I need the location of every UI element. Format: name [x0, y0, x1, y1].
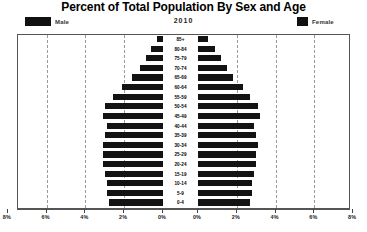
axis-tick-label: 0%	[158, 214, 166, 220]
age-group-label: 35-39	[163, 131, 198, 141]
age-group-label: 75-79	[163, 54, 198, 64]
age-group-label: 60-64	[163, 83, 198, 93]
pyramid-row: 65-69	[18, 73, 349, 83]
age-group-label: 45-49	[163, 112, 198, 122]
axis-tick-label: 6%	[41, 214, 49, 220]
age-group-label: 0-4	[163, 198, 198, 208]
pyramid-row: 5-9	[18, 189, 349, 199]
axis-tick-label: 6%	[309, 214, 317, 220]
pyramid-row: 10-14	[18, 179, 349, 189]
age-group-label: 25-29	[163, 150, 198, 160]
age-group-label: 50-54	[163, 102, 198, 112]
age-group-label: 15-19	[163, 170, 198, 180]
bar-male	[122, 84, 163, 90]
age-group-label: 70-74	[163, 64, 198, 74]
age-group-label: 10-14	[163, 179, 198, 189]
bar-female	[198, 190, 252, 196]
page-title: Percent of Total Population By Sex and A…	[0, 1, 367, 14]
axis-tick	[84, 209, 85, 213]
bar-male	[146, 55, 163, 61]
bar-rows: 85+80-8475-7970-7465-6960-6455-5950-5445…	[18, 35, 349, 208]
pyramid-row: 30-34	[18, 141, 349, 151]
bar-male	[105, 132, 163, 138]
age-group-label: 80-84	[163, 45, 198, 55]
bar-female	[198, 36, 208, 42]
pyramid-row: 0-4	[18, 198, 349, 208]
axis-tick	[7, 209, 8, 213]
bar-male	[132, 74, 163, 80]
bar-female	[198, 74, 233, 80]
pyramid-row: 75-79	[18, 54, 349, 64]
bar-female	[198, 94, 250, 100]
axis-tick-label: 4%	[80, 214, 88, 220]
bar-female	[198, 65, 227, 71]
axis-tick-label: 4%	[270, 214, 278, 220]
age-group-label: 85+	[163, 35, 198, 45]
axis-tick-label: 0%	[193, 214, 201, 220]
pyramid-row: 55-59	[18, 93, 349, 103]
bar-male	[113, 94, 163, 100]
axis-tick	[275, 209, 276, 213]
bar-male	[140, 65, 163, 71]
bar-male	[109, 199, 163, 205]
chart-year-label: 2010	[0, 17, 367, 24]
x-axis: 8%6%4%2%0%0%2%4%6%8%	[17, 209, 350, 231]
pyramid-row: 15-19	[18, 170, 349, 180]
bar-female	[198, 151, 256, 157]
age-group-label: 20-24	[163, 160, 198, 170]
axis-tick-label: 2%	[232, 214, 240, 220]
pyramid-row: 70-74	[18, 64, 349, 74]
bar-male	[107, 123, 163, 129]
pyramid-row: 60-64	[18, 83, 349, 93]
pyramid-row: 80-84	[18, 45, 349, 55]
pyramid-row: 85+	[18, 35, 349, 45]
pyramid-row: 50-54	[18, 102, 349, 112]
bar-male	[103, 142, 163, 148]
axis-line	[17, 209, 350, 210]
axis-tick	[46, 209, 47, 213]
bar-female	[198, 103, 258, 109]
bar-male	[105, 171, 163, 177]
population-pyramid-chart: Percent of Total Population By Sex and A…	[0, 0, 367, 232]
axis-tick-label: 2%	[119, 214, 127, 220]
pyramid-row: 20-24	[18, 160, 349, 170]
axis-tick	[236, 209, 237, 213]
bar-female	[198, 199, 250, 205]
bar-male	[151, 46, 163, 52]
bar-female	[198, 123, 254, 129]
bar-female	[198, 113, 260, 119]
age-group-label: 65-69	[163, 73, 198, 83]
axis-tick	[197, 209, 198, 213]
age-group-label: 55-59	[163, 93, 198, 103]
plot-area: 85+80-8475-7970-7465-6960-6455-5950-5445…	[17, 34, 350, 209]
axis-tick	[162, 209, 163, 213]
pyramid-row: 35-39	[18, 131, 349, 141]
bar-female	[198, 84, 243, 90]
axis-tick-label: 8%	[348, 214, 356, 220]
bar-female	[198, 142, 258, 148]
axis-tick	[313, 209, 314, 213]
axis-tick	[123, 209, 124, 213]
bar-female	[198, 180, 252, 186]
bar-male	[103, 151, 163, 157]
axis-tick	[352, 209, 353, 213]
bar-male	[105, 103, 163, 109]
bar-female	[198, 55, 221, 61]
age-group-label: 40-44	[163, 122, 198, 132]
age-group-label: 5-9	[163, 189, 198, 199]
axis-tick-label: 8%	[3, 214, 11, 220]
pyramid-row: 40-44	[18, 122, 349, 132]
bar-female	[198, 161, 256, 167]
bar-female	[198, 132, 256, 138]
bar-male	[107, 180, 163, 186]
age-group-label: 30-34	[163, 141, 198, 151]
pyramid-row: 25-29	[18, 150, 349, 160]
bar-female	[198, 171, 254, 177]
bar-male	[103, 113, 163, 119]
bar-male	[103, 161, 163, 167]
bar-male	[107, 190, 163, 196]
pyramid-row: 45-49	[18, 112, 349, 122]
bar-female	[198, 46, 215, 52]
